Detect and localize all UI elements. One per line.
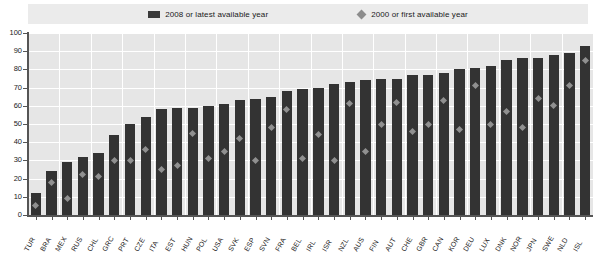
x-axis-label-nor: NOR — [509, 235, 523, 252]
x-axis-label-cze: CZE — [132, 236, 145, 252]
x-axis-label-svn: SVN — [258, 236, 272, 252]
bar-group — [436, 33, 452, 215]
x-axis-tick — [428, 216, 429, 220]
bar-fin — [376, 79, 386, 216]
x-axis-label-svk: SVK — [227, 236, 240, 252]
bar-rus — [78, 157, 88, 215]
x-axis-label-rus: RUS — [70, 236, 84, 253]
x-axis-tick — [161, 216, 162, 220]
bar-group — [546, 33, 562, 215]
legend-item-2000: 2000 or first available year — [356, 10, 468, 19]
x-axis-tick — [554, 216, 555, 220]
x-axis-label-aut: AUT — [384, 236, 397, 252]
bar-mex — [62, 162, 72, 215]
x-axis-label-prt: PRT — [117, 236, 130, 252]
bar-nld — [564, 53, 574, 215]
bar-bel — [297, 89, 307, 215]
bar-group — [373, 33, 389, 215]
x-axis-tick — [303, 216, 304, 220]
bar-nor — [517, 58, 527, 215]
gridline-vertical — [593, 33, 594, 215]
legend-label-2000: 2000 or first available year — [371, 10, 468, 19]
bar-ita — [156, 109, 166, 215]
x-axis-label-nld: NLD — [556, 236, 569, 252]
x-axis-tick — [224, 216, 225, 220]
x-axis-tick — [36, 216, 37, 220]
bar-group — [311, 33, 327, 215]
bar-chl — [93, 153, 103, 215]
x-axis-tick — [240, 216, 241, 220]
bar-jpn — [533, 58, 543, 215]
y-axis-label: 50 — [0, 120, 22, 128]
bar-group — [358, 33, 374, 215]
bar-prt — [125, 124, 135, 215]
bar-group — [138, 33, 154, 215]
y-axis-label: 60 — [0, 102, 22, 110]
x-axis-label-deu: DEU — [462, 236, 476, 253]
y-axis-label: 70 — [0, 84, 22, 92]
x-axis-label-kor: KOR — [446, 235, 460, 252]
bar-group — [530, 33, 546, 215]
bar-swe — [549, 55, 559, 215]
bar-group — [562, 33, 578, 215]
bar-group — [59, 33, 75, 215]
x-axis-label-irl: IRL — [305, 239, 317, 252]
bar-gbr — [423, 75, 433, 215]
x-axis-tick — [83, 216, 84, 220]
bar-group — [420, 33, 436, 215]
bar-group — [389, 33, 405, 215]
bar-isr — [329, 84, 339, 215]
bar-group — [122, 33, 138, 215]
x-axis-label-swe: SWE — [540, 235, 554, 253]
x-axis-label-pol: POL — [195, 236, 208, 252]
x-axis-label-mex: MEX — [54, 235, 68, 252]
bar-group — [28, 33, 44, 215]
bar-group — [232, 33, 248, 215]
bar-isl — [580, 46, 590, 215]
x-axis-tick — [193, 216, 194, 220]
bar-group — [44, 33, 60, 215]
bar-bra — [46, 171, 56, 215]
x-axis-tick — [334, 216, 335, 220]
x-axis-label-chl: CHL — [85, 236, 98, 252]
bar-group — [326, 33, 342, 215]
x-axis-label-nzl: NZL — [336, 237, 349, 252]
y-axis-label: 0 — [0, 211, 22, 219]
x-axis-tick — [491, 216, 492, 220]
x-axis-tick — [460, 216, 461, 220]
x-axis-tick — [271, 216, 272, 220]
legend-label-2008: 2008 or latest available year — [165, 10, 268, 19]
bar-hun — [188, 108, 198, 215]
x-axis-label-lux: LUX — [478, 237, 491, 253]
x-axis-label-hun: HUN — [180, 235, 194, 252]
x-axis-label-bel: BEL — [289, 237, 302, 252]
y-axis-label: 30 — [0, 156, 22, 164]
x-axis-label-usa: USA — [211, 236, 225, 252]
x-axis-tick — [208, 216, 209, 220]
x-axis-tick — [67, 216, 68, 220]
x-axis-label-gbr: GBR — [415, 235, 429, 252]
x-axis-label-bra: BRA — [38, 236, 52, 252]
y-axis-label: 80 — [0, 65, 22, 73]
bar-kor — [454, 69, 464, 215]
y-axis-label: 20 — [0, 175, 22, 183]
bar-group — [248, 33, 264, 215]
bar-group — [154, 33, 170, 215]
bar-group — [185, 33, 201, 215]
x-axis-line — [27, 215, 593, 217]
x-axis-label-fra: FRA — [274, 236, 287, 252]
y-axis-label: 40 — [0, 138, 22, 146]
x-axis-tick — [507, 216, 508, 220]
x-axis-label-est: EST — [164, 237, 177, 253]
x-axis-label-tur: TUR — [23, 236, 37, 252]
x-axis-tick — [381, 216, 382, 220]
x-axis-label-aus: AUS — [352, 236, 366, 252]
bar-dnk — [501, 60, 511, 215]
bar-group — [452, 33, 468, 215]
bar-svn — [266, 97, 276, 215]
bar-grc — [109, 135, 119, 215]
bar-group — [405, 33, 421, 215]
x-axis-tick — [256, 216, 257, 220]
x-axis-tick — [444, 216, 445, 220]
bar-group — [499, 33, 515, 215]
